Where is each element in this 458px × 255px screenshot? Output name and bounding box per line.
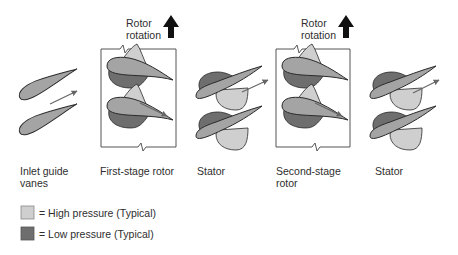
second-stage-rotor-group	[276, 44, 350, 151]
rotor-rotation-label-line1: Rotor	[126, 17, 152, 29]
stator-blade	[196, 66, 262, 110]
guide-vane-blade	[16, 62, 79, 103]
rotor-rotation-label-line2: rotation	[126, 29, 161, 41]
up-arrow-icon	[163, 15, 179, 38]
stage-label: First-stage rotor	[100, 165, 175, 177]
stage-label: Inlet guide	[20, 165, 69, 177]
first-stage-rotor-group	[101, 44, 176, 151]
rotor-rotation-label-line1: Rotor	[301, 17, 327, 29]
stage-label: Stator	[197, 165, 226, 177]
rotor-rotation-label-line2: rotation	[301, 29, 336, 41]
up-arrow-icon	[338, 15, 354, 38]
stage-labels: Inlet guide vanes First-stage rotor Stat…	[20, 165, 404, 189]
stage-label-line2: vanes	[20, 177, 48, 189]
high-pressure-swatch	[21, 206, 34, 219]
stage-label: Second-stage	[276, 165, 341, 177]
airflow-arrow	[242, 80, 268, 92]
low-pressure-swatch	[21, 227, 34, 240]
stator-blade	[370, 66, 436, 110]
stage-label-line2: rotor	[276, 177, 298, 189]
legend: = High pressure (Typical) = Low pressure…	[21, 206, 156, 240]
rotor-rotation-indicator-2: Rotor rotation	[301, 15, 354, 41]
stator-blade	[196, 106, 262, 150]
airflow-arrow	[413, 80, 439, 93]
airflow-arrow	[50, 91, 77, 104]
stator-2-group	[370, 66, 439, 150]
inlet-guide-vanes-group	[16, 62, 79, 138]
stage-label: Stator	[375, 165, 404, 177]
legend-label-low: = Low pressure (Typical)	[39, 228, 154, 240]
guide-vane-blade	[16, 97, 79, 138]
compressor-stage-diagram: Rotor rotation Rotor rotation	[0, 0, 458, 255]
stator-1-group	[196, 66, 268, 150]
legend-label-high: = High pressure (Typical)	[39, 207, 156, 219]
rotor-rotation-indicator-1: Rotor rotation	[126, 15, 179, 41]
stator-blade	[370, 106, 436, 150]
